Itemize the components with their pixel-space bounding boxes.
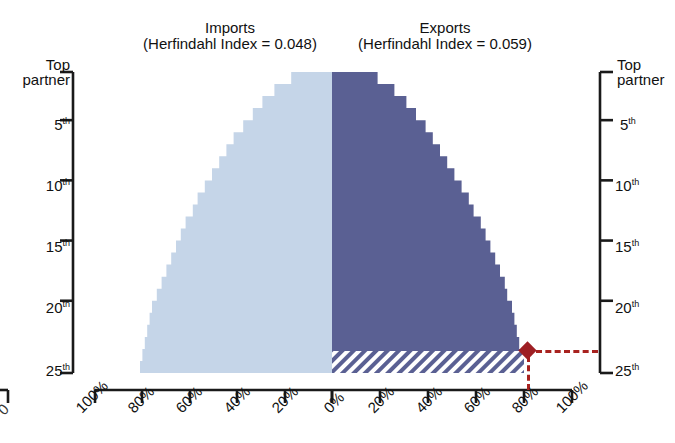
plot-area bbox=[0, 0, 675, 443]
y-right-tick-20: 20th bbox=[615, 300, 639, 315]
leader-line-horizontal bbox=[536, 350, 598, 353]
y-left-tick-25: 25th bbox=[22, 363, 70, 378]
chart-canvas: · · · · · · · · · · Imports (Herfindahl … bbox=[0, 0, 675, 443]
exports-area bbox=[332, 72, 524, 373]
y-left-top-line2: partner bbox=[22, 71, 70, 88]
y-right-tick-25: 25th bbox=[615, 363, 639, 378]
y-left-tick-5: 5th bbox=[30, 117, 70, 132]
y-right-tick-10: 10th bbox=[615, 178, 639, 193]
y-right-top-partner-label: Top partner bbox=[617, 57, 675, 88]
y-left-tick-20: 20th bbox=[22, 300, 70, 315]
y-right-top-line2: partner bbox=[617, 71, 665, 88]
imports-area bbox=[140, 72, 332, 373]
exports-hatched-extension bbox=[332, 351, 524, 373]
y-axis-right bbox=[600, 72, 613, 373]
y-left-tick-15: 15th bbox=[22, 239, 70, 254]
y-right-tick-15: 15th bbox=[615, 239, 639, 254]
y-left-top-partner-label: Top partner bbox=[8, 57, 70, 88]
y-right-tick-5: 5th bbox=[620, 117, 636, 132]
y-left-tick-10: 10th bbox=[22, 178, 70, 193]
